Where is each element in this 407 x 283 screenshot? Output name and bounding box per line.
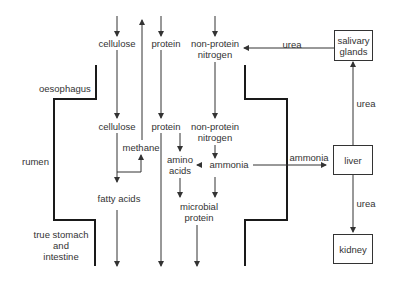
rumen-nitrogen-diagram: oesophagus rumen true stomach and intest… (0, 0, 407, 283)
node-microbial-line2: protein (184, 212, 213, 223)
node-npn-intake-line1: non-protein (191, 38, 239, 49)
organ-liver: liver (333, 145, 373, 175)
organ-kidney: kidney (333, 234, 373, 264)
node-fatty-acids: fatty acids (98, 193, 141, 204)
region-true-stomach: true stomach and intestine (34, 229, 89, 262)
node-cellulose-rumen: cellulose (99, 121, 136, 132)
kidney-label: kidney (339, 244, 366, 255)
node-methane: methane (123, 142, 160, 153)
region-rumen: rumen (22, 156, 49, 167)
edge-label-urea-liver-saliva: urea (356, 98, 375, 109)
edge-label-urea-saliva: urea (282, 39, 301, 50)
node-npn-intake-line2: nitrogen (198, 49, 232, 60)
node-npn-rumen-line2: nitrogen (198, 132, 232, 143)
node-npn-rumen-line1: non-protein (191, 121, 239, 132)
node-protein-intake: protein (151, 38, 180, 49)
edge-label-urea-kidney: urea (356, 198, 375, 209)
organ-salivary-glands: salivary glands (334, 30, 373, 61)
node-microbial-line1: microbial (180, 201, 218, 212)
salivary-line1: salivary (337, 35, 369, 46)
node-amino-line1: amino (167, 154, 193, 165)
liver-label: liver (344, 155, 361, 166)
node-cellulose-intake: cellulose (99, 38, 136, 49)
edge-label-ammonia-liver: ammonia (289, 152, 328, 163)
node-ammonia: ammonia (209, 159, 248, 170)
salivary-line2: glands (340, 46, 368, 57)
node-protein-rumen: protein (151, 121, 180, 132)
region-oesophagus: oesophagus (39, 83, 91, 94)
node-amino-line2: acids (169, 165, 191, 176)
